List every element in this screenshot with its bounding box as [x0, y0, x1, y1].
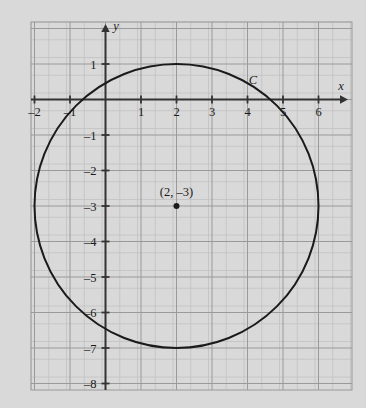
- y-tick-label: –3: [83, 200, 97, 214]
- x-tick-label: 4: [244, 105, 251, 119]
- x-tick-label: –2: [27, 105, 41, 119]
- y-tick-label: –7: [83, 342, 97, 356]
- y-axis-label: y: [111, 19, 119, 33]
- y-tick-label: –8: [83, 377, 97, 391]
- y-tick-label: –1: [83, 129, 97, 143]
- y-tick-label: 1: [90, 58, 96, 72]
- x-tick-label: 2: [173, 105, 179, 119]
- circle-curve-label: C: [249, 73, 258, 87]
- circle-graph-figure: –2–1123456 1–1–2–3–4–5–6–7–8 x y C (2, –…: [0, 0, 366, 408]
- x-tick-label: 1: [138, 105, 144, 119]
- center-point-marker: [174, 203, 180, 209]
- y-tick-label: –5: [83, 271, 97, 285]
- x-axis-label: x: [337, 79, 344, 93]
- y-tick-label: –2: [83, 164, 97, 178]
- x-tick-label: 6: [315, 105, 321, 119]
- figure-background: [0, 0, 366, 408]
- y-tick-label: –4: [83, 235, 97, 249]
- center-point-label: (2, –3): [160, 185, 193, 199]
- coordinate-plane-svg: –2–1123456 1–1–2–3–4–5–6–7–8 x y C (2, –…: [0, 0, 366, 408]
- x-tick-label: 3: [209, 105, 215, 119]
